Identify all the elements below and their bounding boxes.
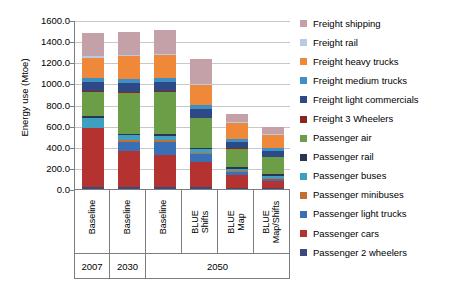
bar-segment[interactable] (118, 32, 140, 55)
bar-segment[interactable] (118, 93, 140, 134)
bar-segment[interactable] (226, 149, 248, 167)
bar-segment[interactable] (262, 127, 284, 135)
x-axis-category-label: Baseline (87, 200, 97, 235)
legend-item[interactable]: Freight light commercials (300, 90, 464, 109)
y-axis-tick-label: 1200.0 (10, 58, 70, 68)
y-axis-tick-label: 400.0 (10, 143, 70, 153)
y-axis-tick-label: 1000.0 (10, 79, 70, 89)
legend-item[interactable]: Freight rail (300, 33, 464, 52)
legend-item-label: Passenger cars (313, 229, 379, 239)
bar-segment[interactable] (154, 92, 176, 134)
bar-segment[interactable] (82, 33, 104, 56)
bar-segment[interactable] (118, 83, 140, 92)
legend-item-label: Passenger light trucks (313, 209, 406, 219)
bar-segment[interactable] (154, 142, 176, 156)
bar-segment[interactable] (82, 118, 104, 128)
x-axis-category-cell: Baseline (146, 190, 182, 254)
bar-segment[interactable] (154, 55, 176, 78)
bar-segment[interactable] (154, 155, 176, 187)
stacked-bar[interactable] (262, 126, 284, 189)
stacked-bar[interactable] (154, 30, 176, 189)
y-axis-tick-mark (70, 21, 74, 22)
bar-segment[interactable] (82, 187, 104, 189)
bar-segment[interactable] (190, 109, 212, 117)
y-axis-tick-mark (70, 63, 74, 64)
legend-item[interactable]: Freight 3 Wheelers (300, 109, 464, 128)
x-axis-category-label: BLUE Shifts (190, 205, 210, 240)
legend-item[interactable]: Passenger minibuses (300, 186, 464, 205)
bar-segment[interactable] (154, 82, 176, 91)
bar-segment[interactable] (118, 142, 140, 151)
y-axis-tick-mark (70, 84, 74, 85)
bar-segment[interactable] (82, 58, 104, 78)
x-axis-group-label: 2030 (117, 261, 138, 272)
bar-segment[interactable] (190, 187, 212, 189)
legend-item[interactable]: Passenger buses (300, 167, 464, 186)
bar-segment[interactable] (154, 187, 176, 189)
legend-item[interactable]: Freight heavy trucks (300, 52, 464, 71)
y-axis-tick-mark (70, 148, 74, 149)
y-axis-tick-label: 0.0 (10, 185, 70, 195)
bar-segment[interactable] (190, 85, 212, 105)
legend-color-swatch-icon (300, 173, 307, 180)
legend-item[interactable]: Passenger rail (300, 148, 464, 167)
x-axis-group-label: 2007 (81, 261, 102, 272)
legend-item[interactable]: Freight shipping (300, 14, 464, 33)
gridline (75, 127, 290, 128)
y-axis-tick-label: 1400.0 (10, 37, 70, 47)
legend-item-label: Freight medium trucks (313, 76, 407, 86)
bar-segment[interactable] (262, 157, 284, 174)
bar-segment[interactable] (190, 59, 212, 84)
x-axis-group-label: 2050 (207, 261, 228, 272)
legend-item-label: Passenger 2 wheelers (313, 248, 407, 258)
gridline (75, 148, 290, 149)
bar-segment[interactable] (262, 188, 284, 189)
bar-segment[interactable] (82, 128, 104, 187)
y-axis-tick-mark (70, 42, 74, 43)
y-axis-tick-label: 600.0 (10, 122, 70, 132)
x-axis-category-cell: BLUE Map (218, 190, 254, 254)
bar-segment[interactable] (82, 82, 104, 91)
bar-segment[interactable] (154, 30, 176, 54)
legend-color-swatch-icon (300, 39, 307, 46)
bar-segment[interactable] (190, 118, 212, 148)
stacked-bar[interactable] (82, 33, 104, 189)
x-axis-category-cell: BLUE Shifts (182, 190, 218, 254)
gridline (75, 42, 290, 43)
bar-segment[interactable] (118, 151, 140, 187)
gridline (75, 63, 290, 64)
bar-segment[interactable] (118, 187, 140, 189)
y-axis-tick-mark (70, 106, 74, 107)
chart-legend: Freight shippingFreight railFreight heav… (300, 14, 464, 262)
legend-item-label: Passenger buses (313, 171, 386, 181)
bar-segment[interactable] (226, 114, 248, 122)
legend-item[interactable]: Passenger air (300, 129, 464, 148)
stacked-bar[interactable] (118, 31, 140, 189)
x-axis-category-label: Baseline (159, 200, 169, 235)
legend-color-swatch-icon (300, 230, 307, 237)
legend-item-label: Passenger air (313, 133, 372, 143)
gridline (75, 21, 290, 22)
bar-segment[interactable] (226, 123, 248, 139)
bar-segment[interactable] (82, 92, 104, 116)
legend-item[interactable]: Passenger cars (300, 224, 464, 243)
legend-item[interactable]: Passenger 2 wheelers (300, 243, 464, 262)
legend-item[interactable]: Passenger light trucks (300, 205, 464, 224)
bar-segment[interactable] (190, 154, 212, 162)
legend-item-label: Passenger rail (313, 152, 374, 162)
y-axis-tick-mark (70, 190, 74, 191)
legend-item-label: Freight 3 Wheelers (313, 114, 393, 124)
legend-color-swatch-icon (300, 58, 307, 65)
legend-item-label: Freight rail (313, 38, 358, 48)
bar-segment[interactable] (118, 56, 140, 78)
legend-item-label: Passenger minibuses (313, 190, 404, 200)
legend-item-label: Freight light commercials (313, 95, 419, 105)
bar-segment[interactable] (262, 135, 284, 148)
bar-segment[interactable] (226, 175, 248, 187)
bar-segment[interactable] (190, 162, 212, 187)
bar-segment[interactable] (226, 188, 248, 189)
x-axis-group-cell: 2050 (146, 254, 290, 279)
legend-item[interactable]: Freight medium trucks (300, 71, 464, 90)
stacked-bar[interactable] (226, 114, 248, 189)
stacked-bar[interactable] (190, 59, 212, 189)
